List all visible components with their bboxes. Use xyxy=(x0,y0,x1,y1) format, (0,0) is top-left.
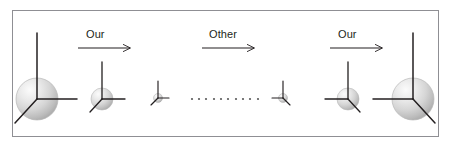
ellipsis-dots xyxy=(191,98,259,100)
ellipsis-dot xyxy=(249,98,251,100)
ellipsis-dot xyxy=(220,98,222,100)
arrow-label-our-2: Our xyxy=(338,28,357,40)
arrow-label-other: Other xyxy=(209,28,237,40)
coordinate-frame-3 xyxy=(151,81,169,105)
coordinate-frame-2 xyxy=(90,62,125,112)
ellipsis-dot xyxy=(227,98,229,100)
coordinate-frame-1 xyxy=(15,33,77,123)
coordinate-frame-4 xyxy=(272,81,290,105)
coordinate-frame-5 xyxy=(325,62,360,112)
ellipsis-dot xyxy=(205,98,207,100)
figure-graphics xyxy=(0,0,451,151)
ellipsis-dot xyxy=(191,98,193,100)
ellipsis-dot xyxy=(198,98,200,100)
figure-container: Our Other Our xyxy=(0,0,451,151)
ellipsis-dot xyxy=(235,98,237,100)
coordinate-frame-6 xyxy=(373,33,435,123)
ellipsis-dot xyxy=(257,98,259,100)
ellipsis-dot xyxy=(242,98,244,100)
ellipsis-dot xyxy=(213,98,215,100)
arrow-label-our-1: Our xyxy=(86,28,105,40)
